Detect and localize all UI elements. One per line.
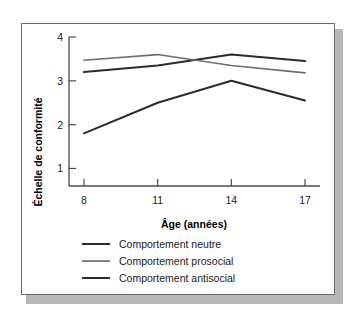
x-tick-label: 11 bbox=[152, 194, 163, 206]
legend-label: Comportement neutre bbox=[119, 238, 221, 250]
y-tick-label: 1 bbox=[57, 162, 63, 174]
x-axis-ticks: 8111417 bbox=[81, 179, 311, 206]
x-tick-label: 14 bbox=[225, 194, 237, 206]
y-axis-title: Échelle de conformité bbox=[32, 97, 44, 206]
x-tick-label: 8 bbox=[81, 194, 87, 206]
line-chart-svg: Échelle de conformité 1234 8111417 Âge (… bbox=[22, 24, 333, 293]
legend-label: Comportement antisocial bbox=[119, 272, 235, 284]
y-axis-ticks: 1234 bbox=[57, 31, 76, 174]
x-tick-label: 17 bbox=[299, 194, 311, 206]
y-tick-label: 4 bbox=[57, 31, 63, 43]
x-axis-title: Âge (années) bbox=[161, 218, 227, 230]
y-tick-label: 2 bbox=[57, 119, 63, 131]
chart-figure: Échelle de conformité 1234 8111417 Âge (… bbox=[0, 0, 354, 317]
figure-frame: Échelle de conformité 1234 8111417 Âge (… bbox=[21, 23, 335, 295]
legend-label: Comportement prosocial bbox=[119, 255, 233, 267]
series-group bbox=[84, 55, 305, 134]
series-line bbox=[84, 81, 305, 134]
plot-area-wrapper: Échelle de conformité 1234 8111417 Âge (… bbox=[22, 24, 334, 294]
chart-legend: Comportement neutreComportement prosocia… bbox=[82, 238, 235, 284]
y-tick-label: 3 bbox=[57, 75, 63, 87]
